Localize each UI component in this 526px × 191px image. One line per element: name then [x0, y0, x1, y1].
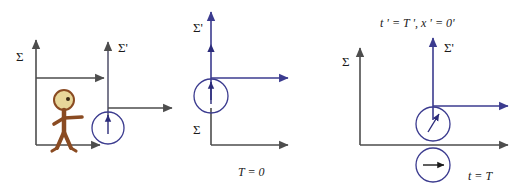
sigma-prime-label-left: Σ' — [118, 40, 128, 55]
clock-primed-left — [92, 112, 124, 144]
panel-frames-coincident-at-t-zero: Σ Σ' T = 0 — [180, 0, 340, 191]
observer-foot-left — [52, 148, 57, 151]
observer-arm-right — [64, 117, 82, 118]
relativity-figure: Σ Σ' — [0, 0, 526, 191]
clock-primed-middle — [194, 79, 228, 113]
sigma-prime-label-middle: Σ' — [193, 20, 203, 35]
observer-eye-icon — [66, 97, 70, 101]
observer-foot-right — [71, 148, 76, 151]
clock-unprimed-right — [416, 148, 450, 182]
sigma-frame-axes-right — [360, 48, 508, 145]
sigma-label-right: Σ — [342, 54, 350, 69]
sigma-label-left: Σ — [16, 49, 24, 64]
stick-figure-observer — [52, 90, 82, 151]
sigma-prime-label-right: Σ' — [444, 40, 454, 55]
annotation-primed-coordinates: t ' = T ', x ' = 0' — [380, 16, 455, 30]
sigma-frame-axes-middle — [211, 108, 288, 145]
sigma-label-middle: Σ — [193, 122, 201, 137]
panel-observer-and-moving-frame: Σ Σ' — [0, 0, 180, 191]
sigma-prime-frame-axes-middle — [207, 12, 288, 100]
caption-t-equals-zero: T = 0 — [238, 165, 265, 179]
sigma-prime-axis-midpoint-arrow — [207, 44, 214, 52]
panel-frames-after-elapsed-time: t ' = T ', x ' = 0' Σ Σ' — [340, 0, 526, 191]
caption-t-equals-T: t = T — [468, 169, 493, 183]
observer-head — [54, 90, 74, 110]
